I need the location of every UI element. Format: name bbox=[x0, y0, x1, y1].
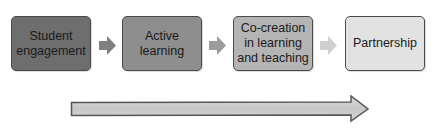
step-label: Student engagement bbox=[16, 29, 86, 59]
step-label: Active learning bbox=[140, 29, 184, 59]
step-label-line: learning bbox=[140, 44, 184, 59]
step-box-active-learning: Active learning bbox=[122, 16, 202, 71]
progression-arrow-icon bbox=[70, 94, 370, 124]
step-label-line: Active bbox=[140, 29, 184, 44]
step-box-student-engagement: Student engagement bbox=[11, 16, 91, 71]
right-arrow-icon bbox=[99, 36, 116, 55]
step-box-partnership: Partnership bbox=[345, 16, 425, 71]
right-arrow-icon bbox=[320, 36, 337, 55]
diagram-canvas: Student engagement Active learning Co-cr… bbox=[0, 0, 437, 129]
step-label-line: Student bbox=[16, 29, 86, 44]
step-label: Partnership bbox=[353, 36, 417, 51]
step-label-line: and teaching bbox=[237, 51, 309, 66]
right-arrow-icon bbox=[209, 36, 226, 55]
step-label-line: Co-creation bbox=[237, 21, 309, 36]
step-box-co-creation: Co-creation in learning and teaching bbox=[233, 16, 313, 71]
step-label-line: Partnership bbox=[353, 36, 417, 51]
step-label-line: engagement bbox=[16, 44, 86, 59]
step-label: Co-creation in learning and teaching bbox=[237, 21, 309, 66]
step-label-line: in learning bbox=[237, 36, 309, 51]
